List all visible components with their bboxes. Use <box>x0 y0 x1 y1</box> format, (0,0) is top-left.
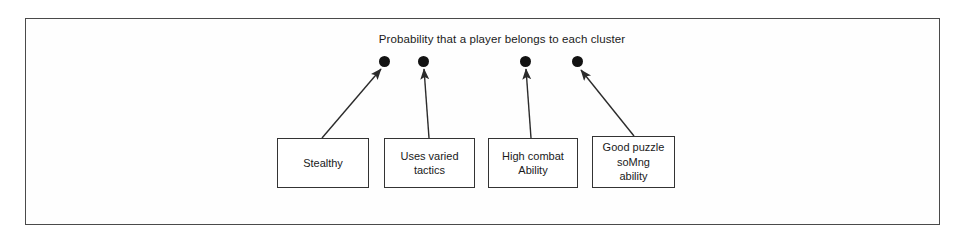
feature-box-label: Uses varied tactics <box>400 149 458 178</box>
feature-box-label: Stealthy <box>303 156 343 171</box>
cluster-dot-1 <box>379 56 390 67</box>
feature-box-stealthy: Stealthy <box>277 138 369 188</box>
feature-box-varied-tactics: Uses varied tactics <box>384 138 475 188</box>
cluster-dot-3 <box>520 56 531 67</box>
cluster-dot-2 <box>418 56 429 67</box>
arrow-puzzle-to-cluster-4 <box>581 70 634 136</box>
feature-box-puzzle-solving-ability: Good puzzle soMng ability <box>592 136 675 188</box>
arrow-layer <box>0 0 967 242</box>
cluster-probability-figure: Probability that a player belongs to eac… <box>0 0 967 242</box>
arrow-stealthy-to-cluster-1 <box>322 69 381 138</box>
cluster-dot-4 <box>572 56 583 67</box>
feature-box-high-combat-ability: High combat Ability <box>488 138 578 188</box>
feature-box-label: High combat Ability <box>502 149 564 178</box>
feature-box-label: Good puzzle soMng ability <box>603 140 665 184</box>
arrow-tactics-to-cluster-2 <box>424 69 429 138</box>
arrow-combat-to-cluster-3 <box>526 69 531 138</box>
